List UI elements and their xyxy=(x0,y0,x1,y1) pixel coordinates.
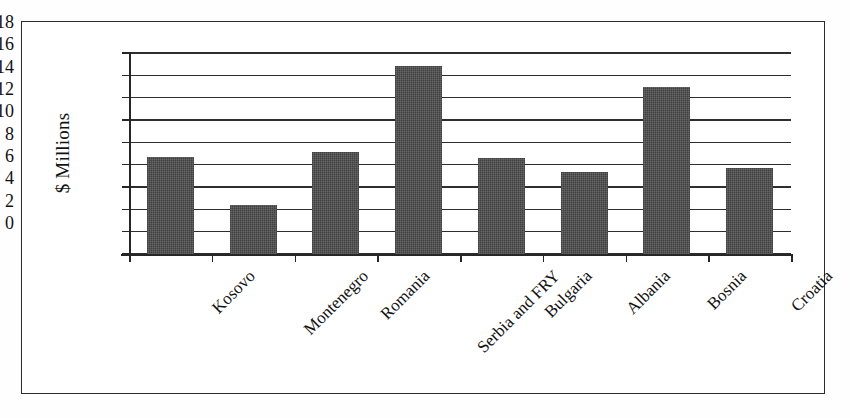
y-axis-tick-label: 4 xyxy=(0,169,14,187)
x-axis-tick-mark xyxy=(543,255,545,262)
gridline xyxy=(129,52,791,53)
y-axis-tick-label: 18 xyxy=(0,13,14,31)
bar xyxy=(395,66,442,254)
figure-frame-border: $ Millions 181614121086420 KosovoMontene… xyxy=(21,21,825,394)
x-axis-tick-mark xyxy=(212,255,214,262)
gridline xyxy=(129,209,791,210)
y-axis-tick-label: 2 xyxy=(0,192,14,210)
x-axis-category-label: Romania xyxy=(376,265,435,324)
y-axis-tick-labels: 181614121086420 xyxy=(0,22,14,223)
y-axis-tick-label: 12 xyxy=(0,80,14,98)
y-axis-tick-label: 0 xyxy=(0,214,14,232)
gridline xyxy=(129,119,791,120)
x-axis-tick-mark xyxy=(791,255,793,262)
x-axis-category-labels: KosovoMontenegroRomaniaSerbia and FRYBul… xyxy=(129,265,791,375)
x-axis-category-label: Montenegro xyxy=(300,265,374,339)
gridline xyxy=(129,231,791,232)
bar-chart: $ Millions 181614121086420 KosovoMontene… xyxy=(22,22,826,395)
y-axis-tick-label: 14 xyxy=(0,58,14,76)
bar xyxy=(726,168,773,254)
x-axis-tick-mark xyxy=(377,255,379,262)
bar xyxy=(643,87,690,255)
y-axis-title: $ Millions xyxy=(52,73,74,233)
y-axis-line xyxy=(129,52,131,255)
x-axis-category-label: Kosovo xyxy=(208,265,261,318)
bar xyxy=(230,205,277,254)
gridline xyxy=(129,164,791,165)
gridline xyxy=(129,186,791,187)
bar xyxy=(478,158,525,254)
x-axis-tick-mark xyxy=(129,255,131,262)
x-axis-tick-mark xyxy=(460,255,462,262)
gridline xyxy=(129,75,791,76)
bar xyxy=(147,157,194,254)
y-axis-tick-label: 16 xyxy=(0,35,14,53)
scanned-page-background: $ Millions 181614121086420 KosovoMontene… xyxy=(0,0,850,418)
x-axis-line xyxy=(121,254,793,256)
x-axis-tick-mark xyxy=(708,255,710,262)
x-axis-tick-mark xyxy=(295,255,297,262)
x-axis-category-label: Albania xyxy=(622,265,676,319)
x-axis-tick-mark xyxy=(626,255,628,262)
y-axis-tick-label: 10 xyxy=(0,102,14,120)
plot-area xyxy=(129,53,791,254)
bar xyxy=(312,152,359,254)
x-axis-category-label: Croatia xyxy=(787,265,838,316)
y-axis-tick-label: 8 xyxy=(0,125,14,143)
y-axis-tick-label: 6 xyxy=(0,147,14,165)
x-axis-category-label: Bosnia xyxy=(703,265,752,314)
gridline xyxy=(129,97,791,98)
bar xyxy=(561,172,608,254)
gridline xyxy=(129,142,791,143)
